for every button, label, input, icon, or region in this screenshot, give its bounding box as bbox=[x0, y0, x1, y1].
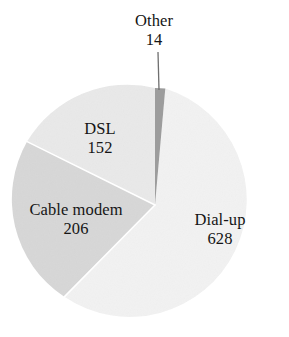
slice-label-dsl-value: 152 bbox=[62, 139, 138, 158]
slice-label-other: Other 14 bbox=[98, 12, 210, 49]
pie-chart-canvas bbox=[0, 0, 289, 337]
other-leader-line bbox=[158, 52, 159, 90]
slice-label-dsl: DSL 152 bbox=[62, 120, 138, 157]
slice-label-cable-modem-value: 206 bbox=[6, 220, 146, 239]
slice-label-dsl-name: DSL bbox=[62, 120, 138, 139]
slice-label-dial-up-name: Dial-up bbox=[176, 211, 264, 230]
slice-label-other-name: Other bbox=[98, 12, 210, 31]
slice-label-cable-modem: Cable modem 206 bbox=[6, 201, 146, 238]
slice-label-other-value: 14 bbox=[98, 31, 210, 50]
slice-label-cable-modem-name: Cable modem bbox=[6, 201, 146, 220]
pie-chart-figure: Other 14 DSL 152 Cable modem 206 Dial-up… bbox=[0, 0, 289, 337]
slice-label-dial-up-value: 628 bbox=[176, 230, 264, 249]
slice-label-dial-up: Dial-up 628 bbox=[176, 211, 264, 248]
